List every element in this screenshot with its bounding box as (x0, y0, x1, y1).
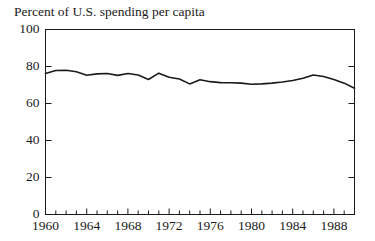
plot-frame (46, 30, 355, 215)
x-tick-label: 1976 (187, 219, 233, 233)
data-series-line (46, 70, 355, 88)
y-tick-label: 60 (0, 96, 40, 110)
x-tick-label: 1972 (146, 219, 192, 233)
x-tick-label: 1984 (270, 219, 316, 233)
x-tick-label: 1960 (23, 219, 69, 233)
chart-figure: Percent of U.S. spending per capita 0204… (0, 0, 375, 241)
plot-area (0, 0, 375, 241)
x-tick-label: 1964 (64, 219, 110, 233)
x-tick-label: 1988 (311, 219, 357, 233)
y-tick-label: 40 (0, 133, 40, 147)
x-tick-label: 1980 (229, 219, 275, 233)
y-tick-label: 100 (0, 22, 40, 36)
y-axis-ticks (46, 30, 355, 215)
y-tick-label: 20 (0, 170, 40, 184)
x-axis-ticks (46, 209, 355, 215)
x-tick-label: 1968 (105, 219, 151, 233)
y-tick-label: 80 (0, 59, 40, 73)
